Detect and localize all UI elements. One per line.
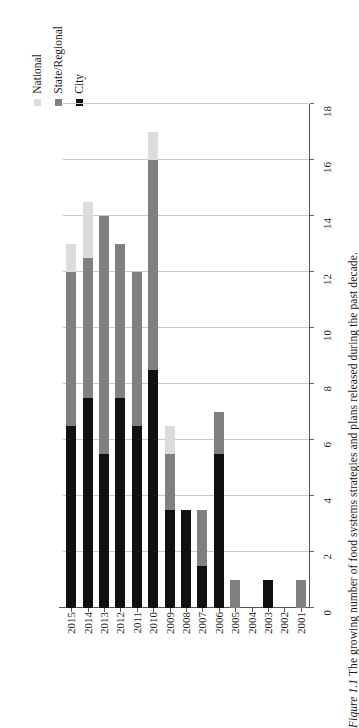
- value-axis-tick: [310, 159, 314, 160]
- bar-group: [197, 104, 207, 608]
- value-axis-tick-label: 4: [321, 498, 333, 522]
- bar-segment-state-regional: [131, 272, 141, 426]
- bar-group: [230, 104, 240, 608]
- bar-segment-city: [213, 454, 223, 608]
- value-axis-tick-label: 8: [321, 386, 333, 410]
- category-axis-tick: [169, 608, 170, 612]
- bar-group: [246, 104, 256, 608]
- category-axis-tick: [202, 608, 203, 612]
- bar-segment-state-regional: [148, 160, 158, 370]
- bar-segment-city: [82, 398, 92, 608]
- bar-segment-city: [197, 566, 207, 608]
- category-axis-tick-label: 2014: [81, 612, 93, 642]
- category-axis-tick: [120, 608, 121, 612]
- bar-segment-state-regional: [82, 258, 92, 398]
- value-axis-tick: [310, 607, 314, 608]
- category-axis-tick-label: 2012: [114, 612, 126, 642]
- category-axis-tick: [186, 608, 187, 612]
- bar-group: [181, 104, 191, 608]
- category-axis-tick-label: 2011: [130, 612, 142, 642]
- bar-segment-national: [82, 202, 92, 258]
- bar-segment-city: [131, 426, 141, 608]
- category-axis-tick-label: 2009: [163, 612, 175, 642]
- bar-group: [263, 104, 273, 608]
- category-axis-tick: [300, 608, 301, 612]
- bar-segment-state-regional: [295, 580, 305, 608]
- value-axis-tick-label: 6: [321, 442, 333, 466]
- bar-group: [99, 104, 109, 608]
- chart-legend: National State/Regional City: [31, 26, 85, 106]
- category-axis-tick-label: 2007: [196, 612, 208, 642]
- bar-segment-state-regional: [66, 272, 76, 426]
- category-axis-tick: [71, 608, 72, 612]
- category-axis-tick: [153, 608, 154, 612]
- value-axis-tick-label: 0: [321, 610, 333, 634]
- category-axis-tick: [284, 608, 285, 612]
- category-axis-tick: [218, 608, 219, 612]
- legend-item-national: National: [31, 26, 43, 106]
- bar-segment-city: [115, 398, 125, 608]
- category-axis-tick-label: 2015: [65, 612, 77, 642]
- category-axis-tick-label: 2008: [180, 612, 192, 642]
- category-axis-tick: [136, 608, 137, 612]
- category-axis-tick: [268, 608, 269, 612]
- stacked-bar-chart: National State/Regional City 02468101214…: [25, 24, 325, 664]
- bar-group: [148, 104, 158, 608]
- bar-group: [115, 104, 125, 608]
- value-axis-tick: [310, 551, 314, 552]
- category-axis-tick-label: 2001: [294, 612, 306, 642]
- value-axis-tick: [310, 215, 314, 216]
- category-axis-tick-label: 2013: [98, 612, 110, 642]
- value-axis-tick-label: 16: [321, 162, 333, 186]
- value-axis-tick-label: 18: [321, 106, 333, 130]
- bar-segment-state-regional: [197, 510, 207, 566]
- bar-segment-city: [164, 510, 174, 608]
- bar-segment-state-regional: [213, 412, 223, 454]
- bar-group: [213, 104, 223, 608]
- bar-group: [295, 104, 305, 608]
- value-axis-tick-label: 10: [321, 330, 333, 354]
- bar-segment-state-regional: [99, 216, 109, 454]
- value-axis-tick: [310, 495, 314, 496]
- bar-group: [164, 104, 174, 608]
- plot-area: 0246810121416182001200220032004200520062…: [63, 104, 309, 608]
- category-axis-tick-label: 2006: [212, 612, 224, 642]
- legend-item-state-regional: State/Regional: [52, 26, 64, 106]
- category-axis-tick-label: 2003: [262, 612, 274, 642]
- category-axis-tick: [235, 608, 236, 612]
- value-axis-tick-label: 2: [321, 554, 333, 578]
- value-axis-tick: [310, 383, 314, 384]
- bar-segment-national: [164, 426, 174, 454]
- bar-segment-national: [148, 132, 158, 160]
- value-axis-tick-label: 12: [321, 274, 333, 298]
- value-axis-tick: [310, 271, 314, 272]
- value-axis-tick-label: 14: [321, 218, 333, 242]
- bar-segment-city: [263, 580, 273, 608]
- bar-segment-city: [181, 510, 191, 608]
- bar-segment-state-regional: [164, 454, 174, 510]
- bar-group: [131, 104, 141, 608]
- value-axis-tick: [310, 439, 314, 440]
- bar-segment-city: [148, 370, 158, 608]
- figure-caption-text: The growing number of food systems strat…: [347, 252, 359, 676]
- legend-label-national: National: [31, 54, 43, 94]
- category-axis-line: [309, 104, 310, 608]
- bar-group: [82, 104, 92, 608]
- bar-group: [279, 104, 289, 608]
- category-axis-tick-label: 2002: [278, 612, 290, 642]
- category-axis-tick-label: 2005: [229, 612, 241, 642]
- category-axis-tick: [104, 608, 105, 612]
- bar-segment-state-regional: [230, 580, 240, 608]
- legend-swatch-national: [33, 98, 40, 105]
- legend-label-state-regional: State/Regional: [52, 26, 64, 94]
- figure-caption: Figure 1.1 The growing number of food sy…: [347, 252, 359, 728]
- bar-segment-city: [66, 426, 76, 608]
- bar-segment-state-regional: [115, 244, 125, 398]
- value-axis-tick: [310, 103, 314, 104]
- legend-swatch-state-regional: [54, 98, 61, 105]
- category-axis-tick: [87, 608, 88, 612]
- legend-label-city: City: [73, 73, 85, 93]
- figure-number: Figure 1.1: [347, 678, 359, 727]
